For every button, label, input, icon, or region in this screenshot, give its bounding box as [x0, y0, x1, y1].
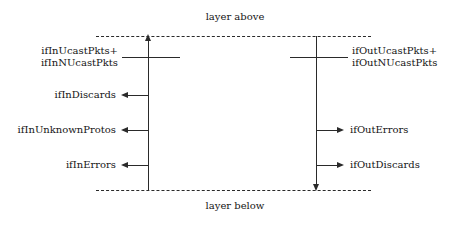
- egress-down-arrowhead-icon: [313, 184, 319, 191]
- ingress-packets-crossbar: [122, 57, 180, 58]
- lower-layer-boundary: [96, 190, 371, 191]
- egress-discards-label: ifOutDiscards: [350, 159, 458, 171]
- egress-packets-label-line2: ifOutNUcastPkts: [352, 57, 460, 69]
- ingress-errors-label: ifInErrors: [8, 159, 116, 171]
- egress-stem-line: [316, 36, 317, 186]
- ingress-discards-arrowhead-icon: [121, 92, 128, 98]
- layer-above-label: layer above: [185, 11, 285, 23]
- layer-below-label: layer below: [185, 200, 285, 212]
- ingress-errors-connector: [128, 165, 148, 166]
- upper-layer-boundary: [96, 36, 371, 37]
- ingress-unknown-protos-connector: [128, 130, 148, 131]
- ingress-packets-label-line2: ifInNUcastPkts: [8, 57, 118, 69]
- ingress-discards-label: ifInDiscards: [8, 89, 116, 101]
- egress-errors-connector: [317, 130, 337, 131]
- ingress-errors-arrowhead-icon: [121, 162, 128, 168]
- egress-discards-arrowhead-icon: [337, 162, 344, 168]
- egress-errors-arrowhead-icon: [337, 127, 344, 133]
- ingress-up-arrowhead-icon: [145, 34, 151, 41]
- interface-counter-diagram: layer above layer below ifInUcastPkts+ i…: [0, 0, 461, 229]
- ingress-unknown-protos-arrowhead-icon: [121, 127, 128, 133]
- ingress-packets-label-line1: ifInUcastPkts+: [8, 45, 118, 57]
- egress-errors-label: ifOutErrors: [350, 124, 458, 136]
- ingress-discards-connector: [128, 95, 148, 96]
- egress-discards-connector: [317, 165, 337, 166]
- ingress-unknown-protos-label: ifInUnknownProtos: [4, 124, 116, 136]
- egress-packets-label-line1: ifOutUcastPkts+: [352, 45, 460, 57]
- egress-packets-crossbar: [290, 57, 348, 58]
- ingress-stem-line: [148, 39, 149, 190]
